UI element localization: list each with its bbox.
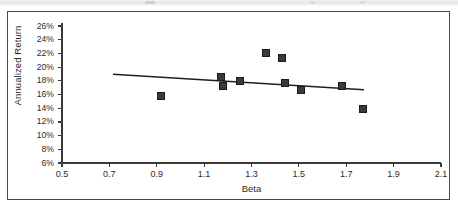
x-tick-label: 0.9 [145, 169, 169, 179]
y-tick-label: 16% [28, 90, 54, 99]
x-tick-label: 0.5 [50, 169, 74, 179]
y-tick-label: 6% [28, 159, 54, 168]
data-point-marker [297, 86, 305, 94]
data-point-marker [219, 82, 227, 90]
x-tick-label: 1.1 [192, 169, 216, 179]
y-tick-label: 18% [28, 76, 54, 85]
x-tick-label: 1.3 [240, 169, 264, 179]
scatter-plot: Annualized Return Beta 26%24%22%20%18%16… [0, 0, 458, 215]
data-point-marker [278, 54, 286, 62]
data-point-marker [236, 77, 244, 85]
chart-screenshot: Annualized Return Beta 26%24%22%20%18%16… [0, 0, 458, 215]
y-tick-label: 10% [28, 131, 54, 140]
x-tick-label: 1.9 [382, 169, 406, 179]
x-tick-label: 2.1 [429, 169, 453, 179]
y-tick-label: 8% [28, 145, 54, 154]
x-tick-label: 1.5 [287, 169, 311, 179]
y-tick-label: 24% [28, 35, 54, 44]
data-point-marker [262, 49, 270, 57]
y-tick-label: 26% [28, 22, 54, 31]
y-tick-label: 14% [28, 104, 54, 113]
data-point-marker [157, 92, 165, 100]
x-tick-label: 1.7 [334, 169, 358, 179]
data-point-marker [359, 105, 367, 113]
y-tick-label: 12% [28, 117, 54, 126]
data-point-marker [281, 79, 289, 87]
y-tick-label: 22% [28, 49, 54, 58]
data-point-marker [217, 73, 225, 81]
x-axis-title: Beta [62, 183, 441, 194]
y-tick-label: 20% [28, 63, 54, 72]
x-tick-label: 0.7 [97, 169, 121, 179]
y-axis-title: Annualized Return [12, 11, 23, 121]
data-point-marker [338, 82, 346, 90]
